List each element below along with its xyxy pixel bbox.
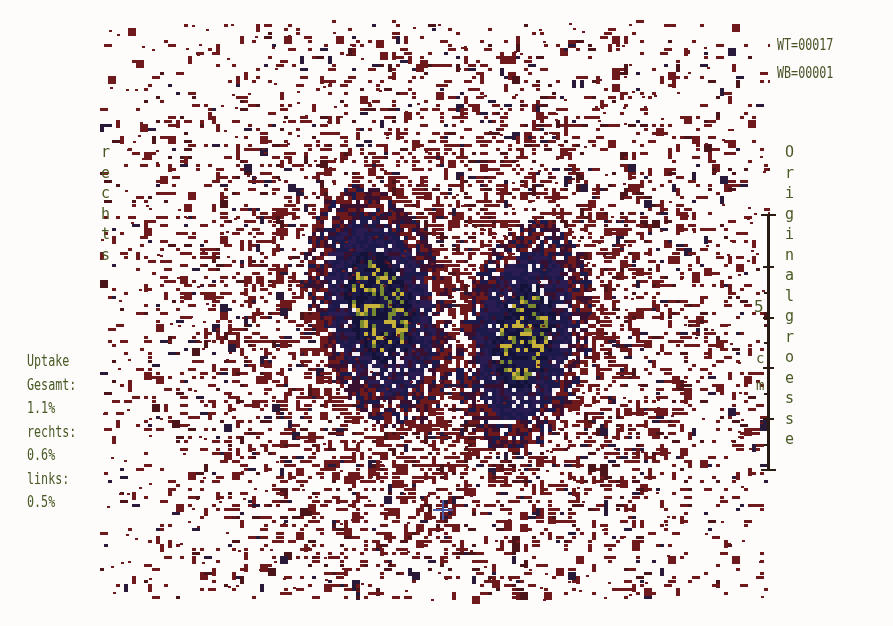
- scale-bar-unit-m: m: [756, 378, 764, 392]
- scale-bar-end-top: [761, 214, 776, 216]
- scale-bar-end-bottom: [761, 469, 776, 471]
- size-label-char: n: [785, 245, 794, 266]
- side-label-rechts: r e c h t s: [101, 142, 110, 265]
- side-label-char: s: [101, 245, 110, 266]
- size-label-char: g: [785, 204, 794, 225]
- side-label-char: c: [101, 183, 110, 204]
- scale-bar-minor-tick: [764, 342, 768, 344]
- size-label-char: s: [785, 409, 794, 430]
- scale-bar-tick: [763, 317, 774, 319]
- size-label-char: O: [785, 142, 794, 163]
- scale-bar-tick: [763, 367, 774, 369]
- size-label-char: o: [785, 347, 794, 368]
- uptake-total-label: Gesamt:: [27, 374, 76, 398]
- marker-cross-icon: [432, 499, 454, 521]
- size-label-char: a: [785, 265, 794, 286]
- scale-bar-unit-c: c: [756, 351, 764, 365]
- size-label-char: e: [785, 368, 794, 389]
- size-label-char: l: [785, 286, 794, 307]
- uptake-left-value: 0.5%: [27, 491, 76, 515]
- uptake-title: Uptake: [27, 350, 76, 374]
- scale-bar-minor-tick: [764, 292, 768, 294]
- scale-bar-tick: [763, 418, 774, 420]
- size-label-char: r: [785, 163, 794, 184]
- size-label-originalgroesse: O r i g i n a l g r o e s s e: [785, 142, 794, 450]
- side-label-char: e: [101, 163, 110, 184]
- uptake-right-label: rechts:: [27, 421, 76, 445]
- size-label-char: i: [785, 224, 794, 245]
- wb-counter: WB=00001: [777, 66, 833, 81]
- side-label-char: r: [101, 142, 110, 163]
- scale-bar-tick: [763, 266, 774, 268]
- size-label-char: r: [785, 327, 794, 348]
- scale-bar-value: 5: [754, 299, 764, 315]
- size-label-char: i: [785, 183, 794, 204]
- uptake-total-value: 1.1%: [27, 397, 76, 421]
- uptake-right-value: 0.6%: [27, 444, 76, 468]
- uptake-panel: Uptake Gesamt: 1.1% rechts: 0.6% links: …: [27, 350, 90, 515]
- scale-bar-minor-tick: [764, 444, 768, 446]
- wt-counter: WT=00017: [777, 38, 833, 53]
- uptake-left-label: links:: [27, 468, 76, 492]
- size-label-char: s: [785, 388, 794, 409]
- scale-bar-minor-tick: [764, 393, 768, 395]
- size-label-char: e: [785, 429, 794, 450]
- side-label-char: h: [101, 204, 110, 225]
- side-label-char: t: [101, 224, 110, 245]
- size-label-char: g: [785, 306, 794, 327]
